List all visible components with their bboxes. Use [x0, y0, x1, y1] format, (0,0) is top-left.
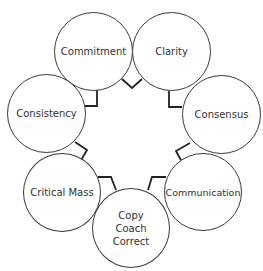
node-label: Critical Mass — [30, 186, 93, 199]
node-label: Commitment — [61, 45, 126, 58]
node-label: Consistency — [16, 107, 76, 120]
connector-commitment-clarity — [122, 79, 142, 88]
connector-consistency-commitment — [83, 90, 97, 106]
node-label: Copy Coach Correct — [113, 209, 150, 248]
node-consistency: Consistency — [7, 74, 86, 153]
node-communication: Communication — [164, 153, 242, 231]
node-critical-mass: Critical Mass — [23, 153, 101, 232]
node-label: Consensus — [195, 108, 249, 121]
node-label: Communication — [166, 186, 241, 199]
node-label: Clarity — [155, 45, 188, 58]
connector-clarity-consensus — [169, 91, 182, 107]
node-clarity: Clarity — [132, 12, 211, 91]
node-consensus: Consensus — [182, 75, 261, 154]
node-copy-coach-correct: Copy Coach Correct — [92, 188, 170, 268]
